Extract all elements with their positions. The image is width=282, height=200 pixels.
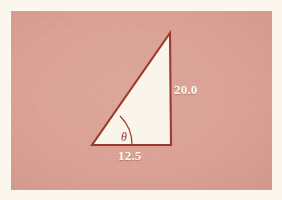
triangle-graphic bbox=[11, 11, 272, 190]
vertical-leg-length-label: 20.0 bbox=[174, 83, 198, 96]
figure-panel: 20.0 12.5 θ bbox=[11, 11, 272, 190]
triangle-shape bbox=[92, 33, 171, 145]
figure-screenshot: 20.0 12.5 θ bbox=[0, 0, 282, 200]
base-leg-length-label: 12.5 bbox=[118, 149, 142, 162]
theta-angle-label: θ bbox=[121, 131, 127, 143]
